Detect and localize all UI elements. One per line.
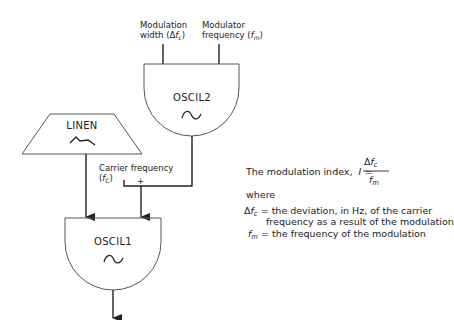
fraction-denominator: fm — [369, 174, 379, 189]
oscil2-title: OSCIL2 — [154, 92, 230, 103]
label-line: frequency (fm) — [202, 30, 263, 43]
modulator-frequency-label: Modulator frequency (fm) — [202, 20, 263, 43]
text: The modulation index, — [246, 166, 353, 177]
subscript: c — [254, 210, 258, 218]
label-text: ) — [182, 30, 185, 40]
var: I — [359, 166, 362, 177]
label-line: width (Δfc) — [140, 30, 187, 43]
definition-fm: fm = the frequency of the modulation — [248, 228, 426, 243]
label-text: ) — [260, 30, 263, 40]
envelope-icon — [70, 137, 95, 145]
where-text: where — [246, 189, 275, 200]
sine-wave-icon — [104, 255, 123, 263]
subscript: m — [251, 233, 258, 241]
modulation-index-text: The modulation index, I = — [246, 166, 372, 177]
plus-sign: + — [137, 176, 144, 186]
label-text: ) — [110, 173, 113, 183]
fraction-numerator: Δfc — [364, 156, 378, 171]
subscript: m — [372, 179, 379, 187]
text: = the deviation, in Hz, of the carrier — [261, 205, 433, 216]
text: = the frequency of the modulation — [261, 228, 426, 239]
definition-delta-fc-cont: frequency as a result of the modulation — [266, 216, 454, 227]
label-line: Carrier frequency — [99, 163, 173, 173]
sine-wave-icon — [182, 111, 201, 119]
oscil1-block — [65, 218, 161, 290]
label-line: Modulator — [202, 20, 263, 30]
label-line: Modulation — [140, 20, 187, 30]
linen-title: LINEN — [50, 120, 114, 131]
subscript: c — [374, 161, 378, 169]
oscil1-title: OSCIL1 — [75, 236, 151, 247]
modulation-width-label: Modulation width (Δfc) — [140, 20, 187, 43]
label-text: width (Δ — [140, 30, 175, 40]
label-text: frequency ( — [202, 30, 251, 40]
